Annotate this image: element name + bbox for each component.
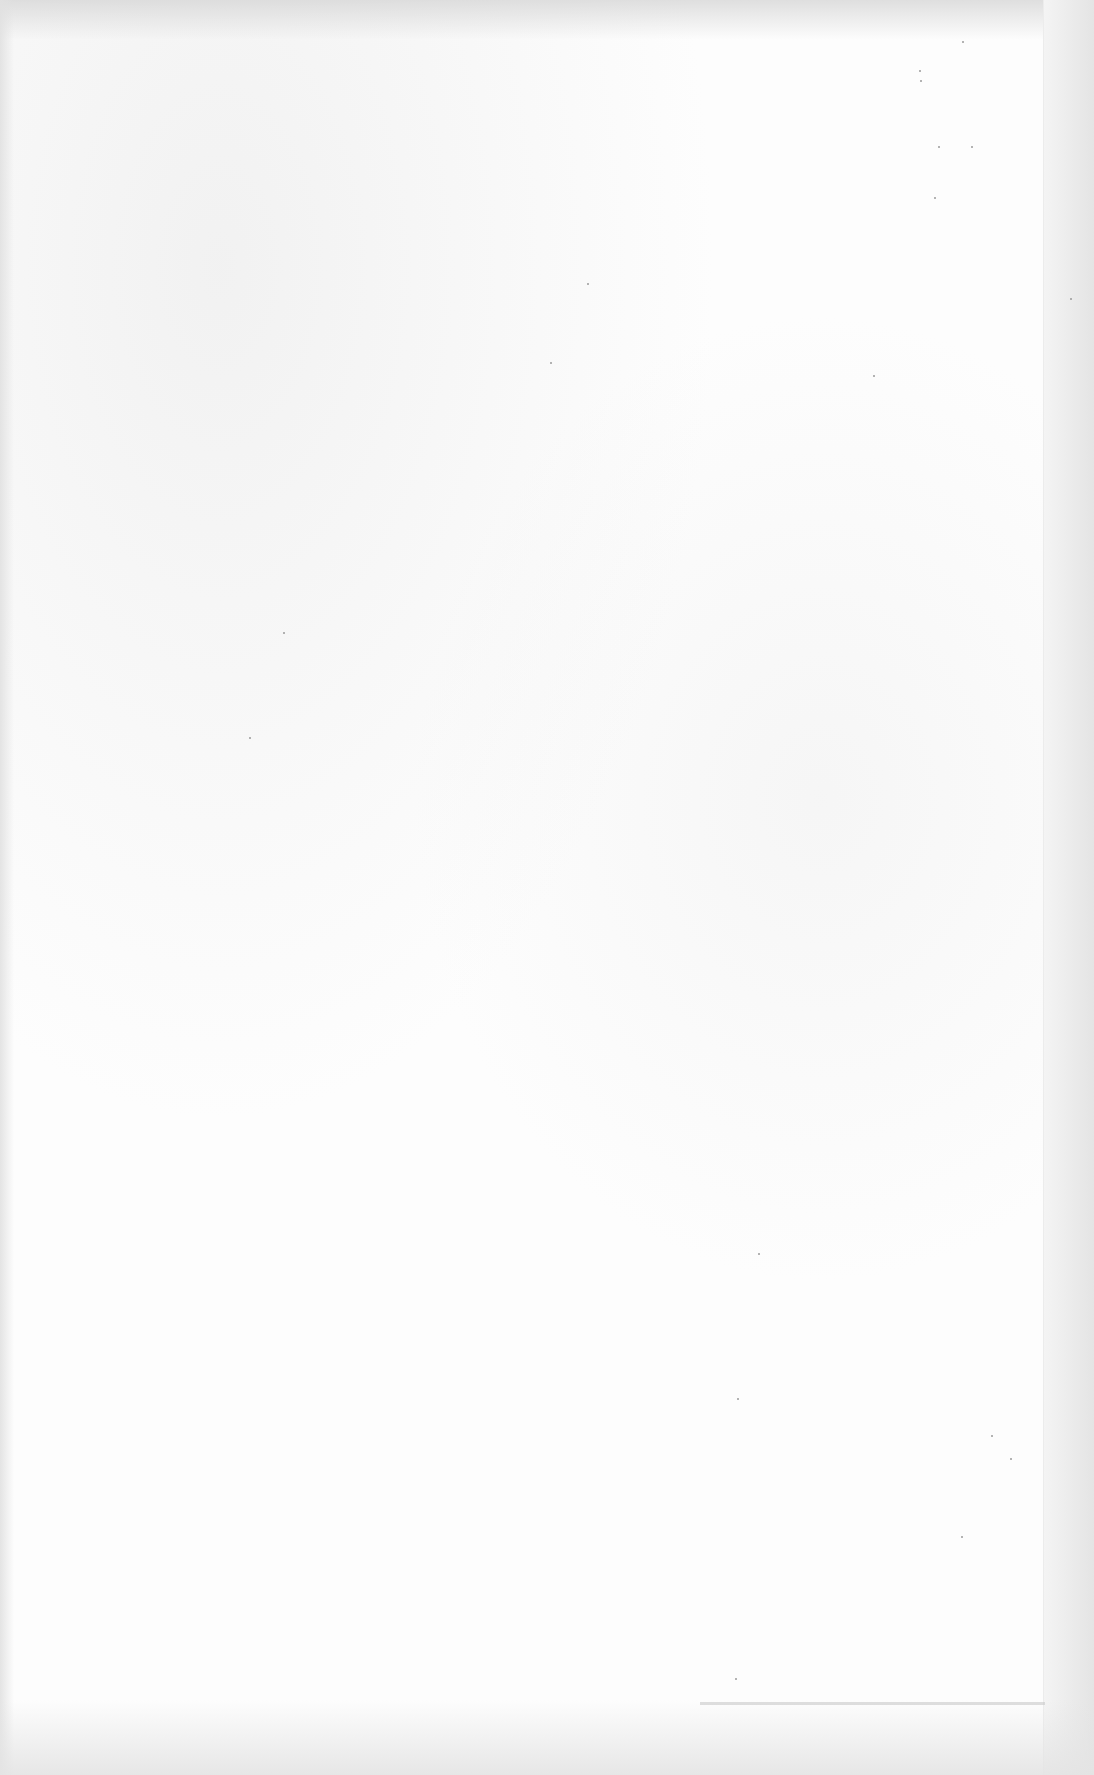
right-scan-edge — [1043, 0, 1094, 1775]
left-scan-edge — [0, 0, 14, 1775]
bottom-fold-line — [700, 1702, 1045, 1705]
bottom-scan-shadow — [0, 1700, 1094, 1775]
top-scan-shadow — [0, 0, 1094, 40]
blank-page — [0, 0, 1094, 1775]
